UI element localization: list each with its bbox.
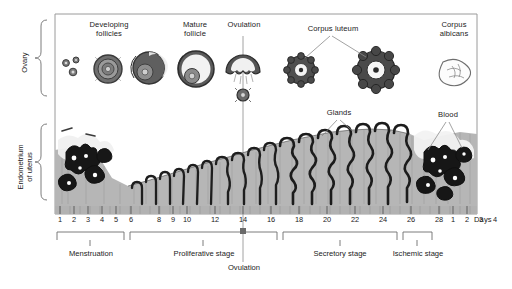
stage-label-secretory-stage: Secretory stage xyxy=(293,249,387,258)
day-tick-label: 26 xyxy=(404,215,418,224)
endometrium-bracket xyxy=(35,124,47,200)
stage-label-ischemic-stage: Ischemic stage xyxy=(376,249,460,258)
label-corpus-albicans: Corpus albicans xyxy=(426,20,482,38)
label-glands: Glands xyxy=(312,108,366,117)
day-tick-label: 20 xyxy=(320,215,334,224)
day-tick-label: 3 xyxy=(81,215,95,224)
day-tick-label: 2 xyxy=(460,215,474,224)
day-tick-label: 2 xyxy=(67,215,81,224)
day-tick-label: 1 xyxy=(53,215,67,224)
label-corpus-luteum: Corpus luteum xyxy=(290,24,376,33)
day-tick-label: 12 xyxy=(208,215,222,224)
corpus-luteum-mature xyxy=(352,46,399,93)
day-tick-label: 9 xyxy=(166,215,180,224)
day-tick-label: 24 xyxy=(376,215,390,224)
stage-brackets xyxy=(57,232,432,246)
ovulation-marker-label: Ovulation xyxy=(216,263,272,272)
day-tick-label: 18 xyxy=(292,215,306,224)
day-tick-label: 5 xyxy=(109,215,123,224)
mature-follicle xyxy=(178,51,214,87)
stage-label-proliferative-stage: Proliferative stage xyxy=(150,249,258,258)
stage-label-menstruation: Menstruation xyxy=(50,249,132,258)
day-tick-label: 6 xyxy=(124,215,138,224)
label-ovulation: Ovulation xyxy=(215,20,273,29)
day-tick-label: 14 xyxy=(236,215,250,224)
axis-label-days: Days xyxy=(474,215,504,224)
day-tick-label: 4 xyxy=(95,215,109,224)
day-tick-label: 16 xyxy=(264,215,278,224)
corpus-luteum-early xyxy=(284,53,319,88)
ovulation-axis-marker xyxy=(240,228,246,234)
row-label-endometrium: Endometrium of uterus xyxy=(16,138,34,196)
day-tick-label: 1 xyxy=(446,215,460,224)
diagram-canvas xyxy=(0,0,512,289)
ovary-bracket xyxy=(35,20,47,96)
developing-follicle-1 xyxy=(94,55,122,83)
day-tick-label: 28 xyxy=(432,215,446,224)
menstrual-cycle-diagram: Ovary Endometrium of uterus Developing f… xyxy=(0,0,512,289)
label-blood: Blood xyxy=(425,110,471,119)
row-label-ovary: Ovary xyxy=(20,43,29,83)
day-tick-label: 8 xyxy=(152,215,166,224)
day-tick-label: 10 xyxy=(180,215,194,224)
day-tick-label: 22 xyxy=(348,215,362,224)
label-developing-follicles: Developing follicles xyxy=(73,20,145,38)
